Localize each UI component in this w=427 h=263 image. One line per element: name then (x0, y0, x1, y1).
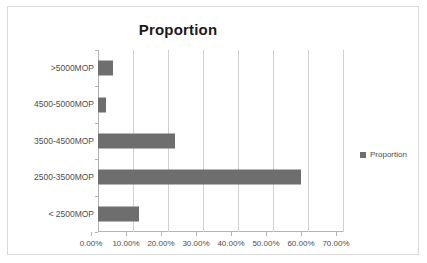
y-axis-tick (95, 196, 98, 197)
y-axis-label: 4500-5000MOP (34, 86, 94, 122)
y-axis-category-labels: >5000MOP4500-5000MOP3500-4500MOP2500-350… (16, 50, 94, 232)
x-axis-tick (91, 232, 92, 236)
x-axis-tick (231, 232, 232, 236)
bar-row (98, 86, 343, 122)
x-axis-tick (196, 232, 197, 236)
y-axis-tick (95, 232, 98, 233)
bar-series-proportion (98, 50, 343, 232)
x-axis-tick-label: 70.00% (313, 239, 359, 248)
chart-screenshot: Proportion >5000MOP4500-5000MOP3500-4500… (0, 0, 427, 263)
bar (98, 97, 106, 112)
x-axis-tick (161, 232, 162, 236)
y-axis-label: 2500-3500MOP (34, 159, 94, 195)
bar (98, 206, 139, 221)
chart-title: Proportion (8, 21, 348, 38)
y-axis-label: < 2500MOP (48, 196, 94, 232)
x-axis-tick (126, 232, 127, 236)
bar (98, 170, 301, 185)
y-axis-tick (95, 86, 98, 87)
bar-row (98, 159, 343, 195)
x-axis-tick (301, 232, 302, 236)
y-axis-tick (95, 50, 98, 51)
y-axis-tick (95, 159, 98, 160)
chart-frame: Proportion >5000MOP4500-5000MOP3500-4500… (7, 6, 419, 255)
y-axis-label: 3500-4500MOP (34, 123, 94, 159)
legend-marker-icon (360, 152, 366, 158)
bar (98, 61, 113, 76)
x-axis-tick (266, 232, 267, 236)
bar-row (98, 196, 343, 232)
bar-row (98, 123, 343, 159)
legend-label: Proportion (370, 150, 407, 159)
y-axis-label: >5000MOP (51, 50, 94, 86)
chart-legend: Proportion (360, 150, 407, 159)
plot-area (98, 50, 343, 232)
bar (98, 133, 175, 148)
gridline (343, 50, 344, 232)
x-axis-tick (336, 232, 337, 236)
bar-row (98, 50, 343, 86)
y-axis-tick (95, 123, 98, 124)
